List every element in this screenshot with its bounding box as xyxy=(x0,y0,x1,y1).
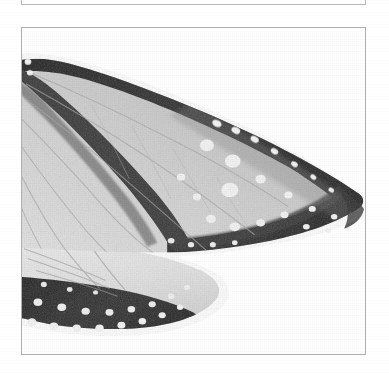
butterfly-wing-image xyxy=(22,28,365,354)
butterfly-wing-plate-frame xyxy=(21,27,366,355)
upper-figure-box xyxy=(21,0,366,5)
